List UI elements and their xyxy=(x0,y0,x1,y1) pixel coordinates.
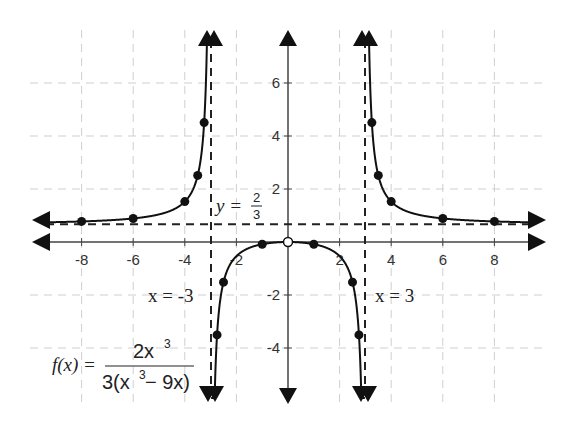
asymptotes xyxy=(46,40,534,392)
svg-text:2: 2 xyxy=(253,190,260,205)
open-point-hole xyxy=(284,238,293,247)
x-tick-label: 6 xyxy=(439,251,447,268)
svg-text:3: 3 xyxy=(253,207,260,222)
function-label: f(x) = 2x 3 3(x 3 − 9x) xyxy=(52,337,194,393)
data-point xyxy=(374,171,383,180)
data-point xyxy=(438,214,447,223)
y-tick-label: 2 xyxy=(272,180,280,197)
left-branch xyxy=(45,36,207,222)
y-tick-label: 6 xyxy=(272,74,280,91)
data-point xyxy=(387,197,396,206)
data-point xyxy=(309,240,318,249)
x-tick-label: -4 xyxy=(178,251,191,268)
vertical-asymptote-left-label: x = -3 xyxy=(148,285,194,306)
svg-text:2x: 2x xyxy=(133,340,154,362)
data-point xyxy=(129,214,138,223)
y-tick-label: 4 xyxy=(272,127,280,144)
curve-arrows xyxy=(32,30,546,402)
x-tick-label: -8 xyxy=(75,251,88,268)
axis-ticks: -8-6-4-22468642-2-4 xyxy=(75,74,499,356)
svg-text:f(x) =: f(x) = xyxy=(52,354,96,376)
svg-text:3: 3 xyxy=(164,337,171,351)
horizontal-asymptote-label: y = 2 3 xyxy=(214,190,262,222)
x-tick-label: -2 xyxy=(230,251,243,268)
right-branch xyxy=(369,36,531,222)
data-point xyxy=(219,278,228,287)
x-tick-label: 8 xyxy=(490,251,498,268)
x-tick-label: -6 xyxy=(127,251,140,268)
y-tick-label: -2 xyxy=(267,286,280,303)
data-point xyxy=(490,217,499,226)
data-point xyxy=(367,118,376,127)
data-point xyxy=(200,118,209,127)
y-tick-label: -4 xyxy=(267,339,280,356)
data-point xyxy=(258,240,267,249)
vertical-asymptote-right-label: x = 3 xyxy=(375,285,414,306)
data-point xyxy=(354,330,363,339)
svg-text:− 9x): − 9x) xyxy=(145,371,190,393)
data-point xyxy=(77,217,86,226)
svg-text:y =: y = xyxy=(214,195,242,216)
data-point xyxy=(348,278,357,287)
data-point xyxy=(213,330,222,339)
data-point xyxy=(180,197,189,206)
svg-text:3(x: 3(x xyxy=(102,371,130,393)
data-point xyxy=(193,171,202,180)
x-tick-label: 4 xyxy=(387,251,395,268)
function-graph: -8-6-4-22468642-2-4 y = 2 3 x = -3 x = 3… xyxy=(0,0,575,421)
